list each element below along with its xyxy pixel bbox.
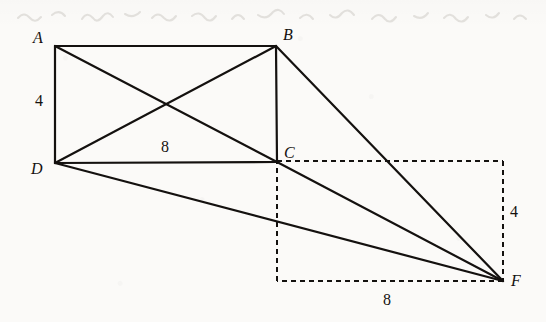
vertex-label-F: F: [511, 273, 521, 289]
vertex-label-B: B: [283, 27, 293, 43]
dimension-label-bottom: 8: [383, 292, 391, 308]
vertex-label-D: D: [31, 161, 43, 177]
edge-BC: [276, 46, 277, 162]
diagram-page: A B C D F 4 8 4 8: [0, 0, 546, 322]
dimension-label-AD: 4: [35, 93, 43, 109]
dimension-label-DC: 8: [161, 139, 169, 155]
edge-DF: [55, 163, 503, 281]
geometry-figure: [0, 0, 546, 322]
edge-BF: [276, 46, 503, 281]
vertex-label-C: C: [284, 145, 295, 161]
edge-CD: [55, 162, 277, 163]
edge-CF: [277, 162, 503, 281]
vertex-label-A: A: [33, 30, 43, 46]
dimension-label-right: 4: [510, 204, 518, 220]
